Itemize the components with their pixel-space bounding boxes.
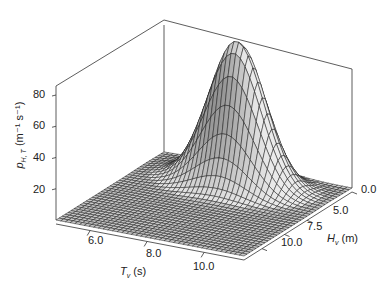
y-label-main: H	[327, 232, 335, 244]
z-label-sub: H, T	[20, 149, 27, 162]
z-axis-label: pH, T (m⁻¹ s⁻¹)	[13, 85, 27, 185]
y-tick-0: 0.0	[361, 183, 376, 195]
surface-plot: 80 60 40 20 pH, T (m⁻¹ s⁻¹) 6.0 8.0 10.0…	[0, 0, 386, 286]
x-tick-10: 10.0	[193, 260, 214, 272]
y-label-sub: v	[335, 239, 339, 246]
x-tick-6: 6.0	[88, 234, 103, 246]
y-label-units: (m)	[342, 232, 359, 244]
x-label-sub: v	[127, 272, 131, 279]
z-tick-80: 80	[33, 88, 45, 100]
y-tick-10: 10.0	[281, 236, 302, 248]
x-label-main: T	[120, 265, 127, 277]
z-label-main: p	[13, 162, 25, 168]
x-axis-label: Tv (s)	[120, 265, 146, 279]
y-tick-7.5: 7.5	[307, 220, 322, 232]
y-axis-label: Hv (m)	[327, 232, 358, 246]
z-tick-60: 60	[33, 119, 45, 131]
x-tick-8: 8.0	[146, 247, 161, 259]
z-tick-20: 20	[33, 183, 45, 195]
x-label-units: (s)	[133, 265, 146, 277]
y-tick-5: 5.0	[333, 204, 348, 216]
z-tick-40: 40	[33, 151, 45, 163]
z-label-units: (m⁻¹ s⁻¹)	[13, 102, 25, 146]
